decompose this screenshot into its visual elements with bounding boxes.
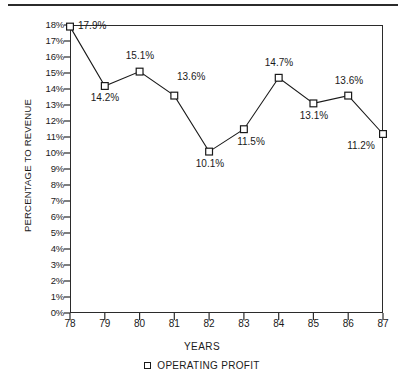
x-axis-tick-label: 84 <box>264 318 294 330</box>
x-axis-tick-label: 81 <box>159 318 189 330</box>
x-axis-tick-labels: 78 79 80 81 82 83 84 85 86 87 <box>0 318 404 334</box>
x-axis-tick-label: 85 <box>298 318 328 330</box>
x-axis-title: YEARS <box>0 341 404 352</box>
data-point-label: 14.2% <box>83 92 127 103</box>
legend-label: OPERATING PROFIT <box>157 360 259 371</box>
x-axis-tick-label: 78 <box>55 318 85 330</box>
open-square-marker-icon <box>144 362 151 369</box>
data-point-label: 13.1% <box>292 110 336 121</box>
data-point-label: 13.6% <box>177 71 227 82</box>
operating-profit-series <box>67 23 387 155</box>
x-axis-tick-label: 80 <box>125 318 155 330</box>
data-point-label: 11.5% <box>229 136 273 147</box>
operating-profit-line-chart: 18% 17% 16% 15% 14% 13% 12% 11% 10% 9% 8… <box>0 0 404 378</box>
data-point-label: 17.9% <box>78 20 128 31</box>
data-point-label: 15.1% <box>118 50 162 61</box>
y-axis-title: PERCENTAGE TO REVENUE <box>22 56 33 276</box>
x-axis-tick-label: 82 <box>194 318 224 330</box>
data-point-label: 13.6% <box>327 75 371 86</box>
data-point-markers <box>67 23 387 155</box>
x-axis-tick-label: 86 <box>333 318 363 330</box>
chart-legend: OPERATING PROFIT <box>0 360 404 371</box>
x-axis-tick-label: 83 <box>229 318 259 330</box>
data-point-label: 10.1% <box>188 158 232 169</box>
data-line <box>70 27 383 152</box>
y-axis-ticks <box>64 25 70 313</box>
x-axis-tick-label: 79 <box>90 318 120 330</box>
x-axis-tick-label: 87 <box>368 318 398 330</box>
data-point-label: 14.7% <box>257 57 301 68</box>
data-point-label: 11.2% <box>339 140 383 151</box>
